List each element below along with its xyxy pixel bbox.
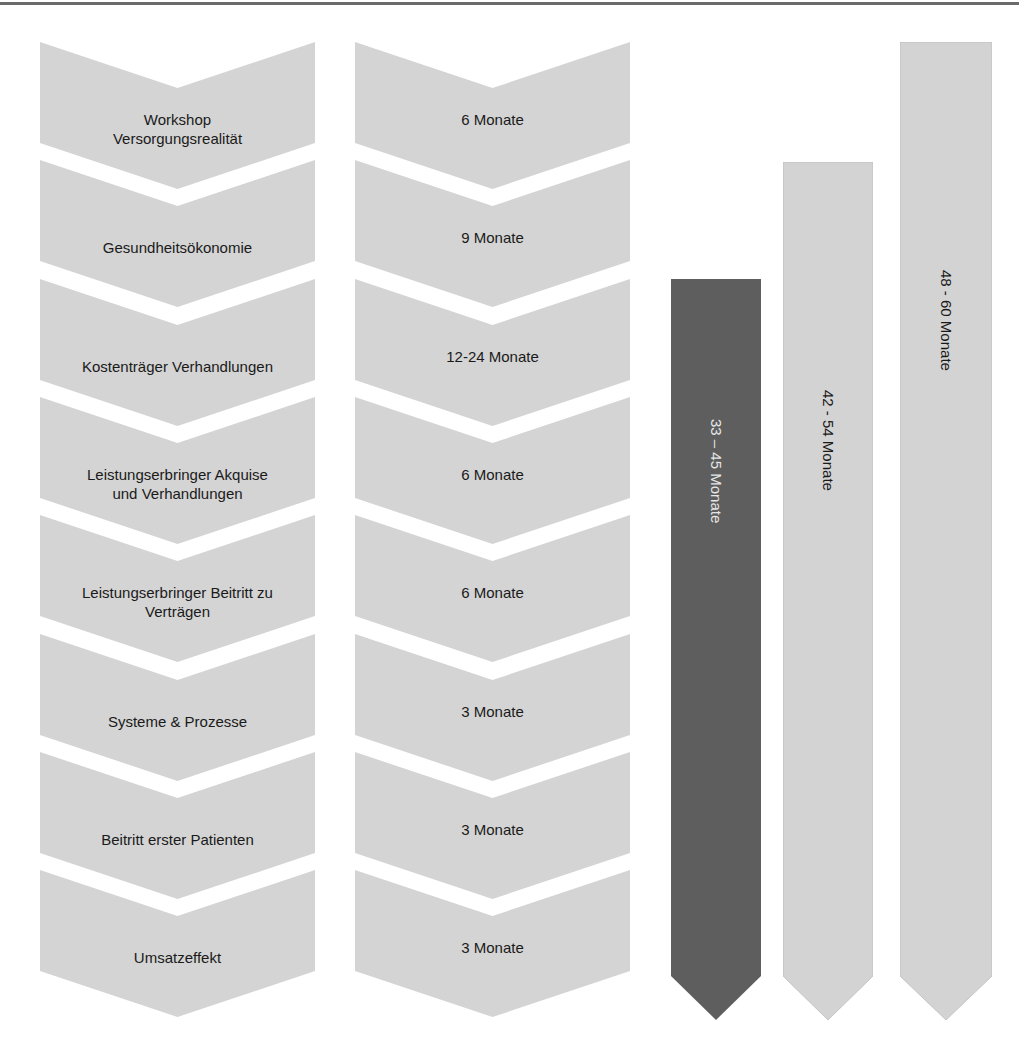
phase-label-line: Gesundheitsökonomie bbox=[40, 238, 315, 257]
phase-label-line: Workshop bbox=[40, 110, 315, 129]
phase-label-line: Systeme & Prozesse bbox=[40, 712, 315, 731]
page-top-rule bbox=[0, 2, 1019, 5]
duration-label: 6 Monate bbox=[355, 583, 630, 602]
total-duration-arrow: 33 – 45 Monate bbox=[671, 279, 761, 1020]
phase-chevron: Umsatzeffekt bbox=[40, 870, 315, 1017]
phase-label: Kostenträger Verhandlungen bbox=[40, 357, 315, 376]
total-duration-label: 48 - 60 Monate bbox=[938, 270, 955, 371]
phase-label: Leistungserbringer Beitritt zuVerträgen bbox=[40, 583, 315, 621]
duration-label: 3 Monate bbox=[355, 820, 630, 839]
total-duration-label: 33 – 45 Monate bbox=[708, 419, 725, 523]
phase-label-line: Versorgungsrealität bbox=[40, 129, 315, 148]
chevron-shape-icon bbox=[40, 870, 315, 1017]
duration-label: 9 Monate bbox=[355, 228, 630, 247]
phase-label: Gesundheitsökonomie bbox=[40, 238, 315, 257]
total-duration-arrow: 48 - 60 Monate bbox=[900, 42, 992, 1020]
total-duration-label: 42 - 54 Monate bbox=[820, 390, 837, 491]
down-arrow-icon bbox=[783, 162, 873, 1020]
total-duration-arrow: 42 - 54 Monate bbox=[783, 162, 873, 1020]
phase-label-line: Kostenträger Verhandlungen bbox=[40, 357, 315, 376]
phase-label: Umsatzeffekt bbox=[40, 948, 315, 967]
down-arrow-icon bbox=[671, 279, 761, 1020]
phase-label-line: Verträgen bbox=[40, 602, 315, 621]
phase-label: Systeme & Prozesse bbox=[40, 712, 315, 731]
phase-label: WorkshopVersorgungsrealität bbox=[40, 110, 315, 148]
phase-label-line: Leistungserbringer Akquise bbox=[40, 465, 315, 484]
duration-label: 6 Monate bbox=[355, 465, 630, 484]
phase-label: Beitritt erster Patienten bbox=[40, 830, 315, 849]
phase-label-line: und Verhandlungen bbox=[40, 484, 315, 503]
duration-label: 12-24 Monate bbox=[355, 347, 630, 366]
duration-label: 3 Monate bbox=[355, 702, 630, 721]
phase-label-line: Leistungserbringer Beitritt zu bbox=[40, 583, 315, 602]
duration-label: 6 Monate bbox=[355, 110, 630, 129]
phase-label-line: Beitritt erster Patienten bbox=[40, 830, 315, 849]
phase-label-line: Umsatzeffekt bbox=[40, 948, 315, 967]
phase-label: Leistungserbringer Akquiseund Verhandlun… bbox=[40, 465, 315, 503]
down-arrow-icon bbox=[900, 42, 992, 1020]
duration-label: 3 Monate bbox=[355, 938, 630, 957]
duration-chevron: 3 Monate bbox=[355, 870, 630, 1017]
